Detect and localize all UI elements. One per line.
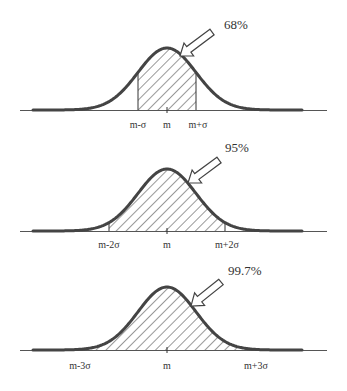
- mean-label: m: [163, 119, 171, 130]
- bell-curve-panel-1: 68%m-σmm+σ: [20, 17, 327, 130]
- right-tick-label: m+σ: [189, 119, 208, 130]
- percent-label: 68%: [224, 17, 248, 32]
- shaded-area: [138, 48, 196, 110]
- right-tick-label: m+2σ: [215, 239, 239, 250]
- normal-distribution-diagram: 68%m-σmm+σ95%m-2σmm+2σ99.7%m-3σmm+3σ: [0, 0, 347, 391]
- left-tick-label: m-3σ: [69, 360, 91, 371]
- shaded-area: [109, 169, 225, 231]
- arrow-icon: [191, 279, 223, 306]
- left-tick-label: m-σ: [130, 119, 147, 130]
- bell-curve-panel-3: 99.7%m-3σmm+3σ: [20, 263, 327, 371]
- percent-label: 95%: [225, 140, 249, 155]
- mean-label: m: [163, 239, 171, 250]
- right-tick-label: m+3σ: [244, 360, 268, 371]
- bell-curve-panel-2: 95%m-2σmm+2σ: [20, 140, 327, 250]
- left-tick-label: m-2σ: [98, 239, 120, 250]
- arrow-icon: [180, 29, 214, 56]
- mean-label: m: [163, 360, 171, 371]
- shaded-area: [80, 287, 254, 350]
- percent-label: 99.7%: [228, 263, 262, 278]
- arrow-icon: [188, 157, 221, 183]
